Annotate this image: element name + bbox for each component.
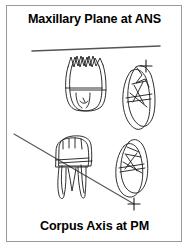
tracing-canvas bbox=[6, 5, 182, 242]
ans-marker bbox=[140, 60, 152, 72]
mandibular-molar-proximal bbox=[116, 140, 148, 198]
maxillary-plane-line bbox=[32, 46, 160, 51]
maxillary-molar-proximal bbox=[123, 66, 155, 130]
maxillary-molar-frontal bbox=[66, 56, 106, 111]
cephalometric-superimposition-figure: Maxillary Plane at ANS bbox=[0, 0, 189, 249]
mandibular-molar-frontal bbox=[56, 136, 92, 199]
pm-marker bbox=[128, 198, 140, 210]
bottom-label: Corpus Axis at PM bbox=[0, 219, 189, 233]
